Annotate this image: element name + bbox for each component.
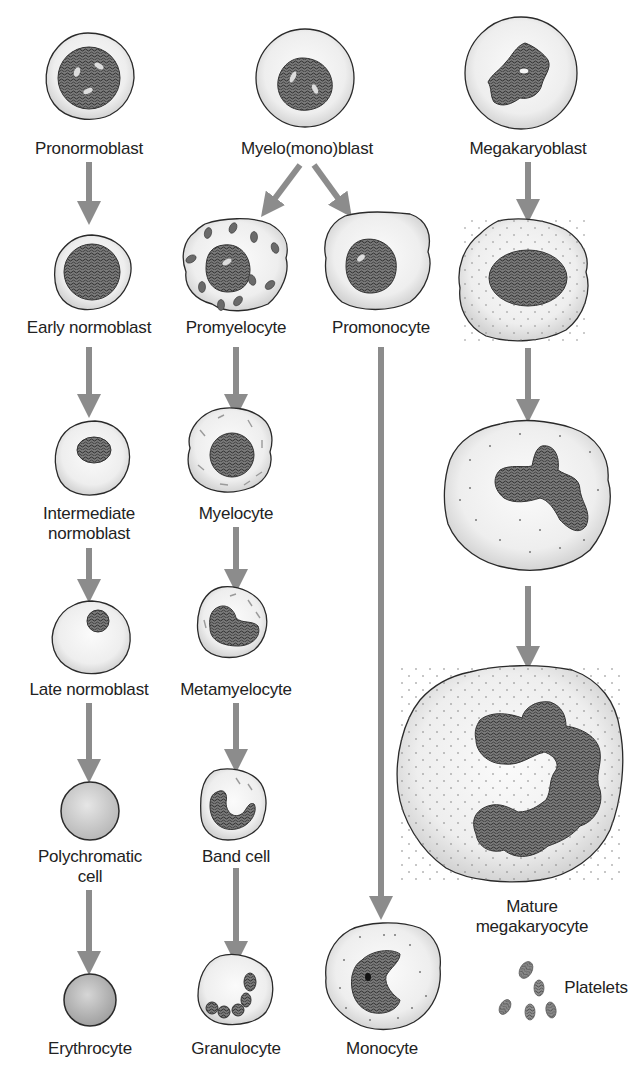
label-intermediate-normoblast-line2: normoblast [48,524,130,544]
label-intermediate-normoblast-line1: Intermediate [43,504,135,524]
label-mature-megakaryocyte-line2: megakaryocyte [476,917,589,937]
myelocyte-cell-icon [188,408,272,492]
pronormoblast-cell-icon [46,33,134,119]
label-metamyelocyte: Metamyelocyte [180,680,292,700]
megakaryocyte-intermediate-cell-icon [459,219,590,344]
myelomonoblast-cell-icon [256,29,354,127]
early-normoblast-cell-icon [55,235,131,310]
band-cell-icon [201,769,266,840]
intermediate-normoblast-cell-icon [55,421,129,495]
metamyelocyte-cell-icon [198,587,267,658]
arrow-icon [270,165,300,205]
promyelocyte-cell-icon [183,219,287,311]
label-early-normoblast: Early normoblast [27,318,151,338]
label-mature-megakaryocyte-line1: Mature [506,897,558,917]
arrow-icon [314,165,343,205]
label-monocyte: Monocyte [346,1039,418,1059]
label-band-cell: Band cell [202,847,270,867]
megakaryocyte-lobulated-cell-icon [444,421,610,571]
mature-megakaryocyte-cell-icon [397,664,624,884]
label-pronormoblast: Pronormoblast [35,139,143,159]
promonocyte-cell-icon [325,212,430,310]
platelets-icon [497,959,558,1020]
monocyte-cell-icon [326,923,441,1030]
label-polychromatic-line2: cell [78,867,103,887]
megakaryoblast-cell-icon [465,17,577,129]
label-polychromatic-line1: Polychromatic [38,847,142,867]
label-promonocyte: Promonocyte [332,318,430,338]
label-megakaryoblast: Megakaryoblast [469,139,586,159]
label-platelets: Platelets [564,978,627,998]
label-myelocyte: Myelocyte [199,504,274,524]
erythrocyte-cell-icon [64,974,116,1026]
cell-lineage-diagram: Pronormoblast Early normoblast Intermedi… [0,0,640,1072]
granulocyte-cell-icon [198,954,273,1024]
label-granulocyte: Granulocyte [191,1039,280,1059]
label-late-normoblast: Late normoblast [30,680,149,700]
label-promyelocyte: Promyelocyte [186,318,287,338]
label-myelomonoblast: Myelo(mono)blast [241,139,373,159]
late-normoblast-cell-icon [52,601,130,674]
polychromatic-cell-icon [61,782,119,840]
label-erythrocyte: Erythrocyte [48,1039,132,1059]
